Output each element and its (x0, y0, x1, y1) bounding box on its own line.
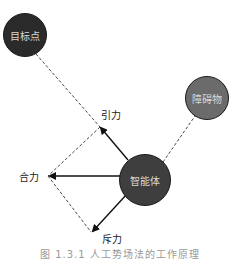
agent-node: 智能体 (119, 154, 171, 206)
repulsion-label: 斥力 (102, 231, 122, 246)
parallelogram-edge-top (48, 127, 100, 176)
parallelogram-edge-bottom (48, 176, 91, 232)
agent-label: 智能体 (130, 173, 160, 188)
target-dashed-line (36, 54, 100, 127)
target-node: 目标点 (3, 13, 47, 57)
obstacle-dashed-line (163, 116, 195, 162)
target-label: 目标点 (10, 28, 40, 43)
resultant-label: 合力 (19, 169, 39, 184)
attraction-label: 引力 (101, 107, 121, 122)
repulsion-arrow (93, 194, 127, 231)
figure-caption: 图 1.3.1 人工势场法的工作原理 (40, 246, 200, 261)
attraction-arrow (101, 128, 128, 160)
obstacle-label: 障碍物 (192, 91, 222, 106)
obstacle-node: 障碍物 (185, 76, 229, 120)
